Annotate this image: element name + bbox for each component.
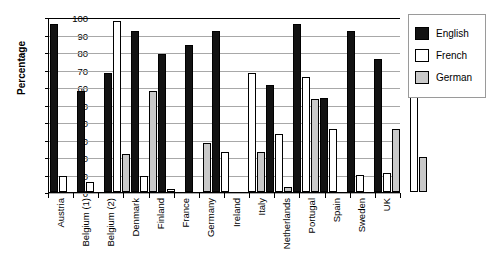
- bar-german: [419, 157, 427, 192]
- x-axis-label: Ireland: [232, 198, 242, 227]
- bar-group: [103, 18, 130, 192]
- bar-german: [392, 129, 400, 192]
- x-axis-label: Belgium (1): [81, 198, 91, 247]
- bar-german: [311, 99, 319, 192]
- chart-legend: EnglishFrenchGerman: [408, 14, 486, 98]
- x-axis-label: Portugal: [307, 198, 317, 233]
- plot-area: [48, 18, 400, 193]
- bar-english: [104, 73, 112, 192]
- x-axis-label-cell: Belgium (2): [98, 196, 123, 264]
- bar-group: [238, 18, 265, 192]
- x-axis-label: Netherlands: [282, 198, 292, 249]
- x-axis-label-cell: France: [174, 196, 199, 264]
- bar-german: [122, 154, 130, 193]
- bar-english: [320, 98, 328, 193]
- bar-french: [356, 175, 364, 193]
- legend-label: German: [436, 72, 472, 83]
- bar-group: [211, 18, 238, 192]
- bar-french: [140, 176, 148, 192]
- bar-english: [212, 31, 220, 192]
- bar-french: [113, 21, 121, 193]
- bar-french: [248, 73, 256, 192]
- x-axis-label: Austria: [56, 198, 66, 228]
- bar-group: [49, 18, 76, 192]
- bar-french: [275, 134, 283, 192]
- bar-french: [410, 87, 418, 192]
- bar-english: [374, 59, 382, 192]
- bar-group: [184, 18, 211, 192]
- x-axis-label-cell: Ireland: [224, 196, 249, 264]
- legend-item-french: French: [415, 44, 479, 66]
- bar-group: [265, 18, 292, 192]
- bar-group: [130, 18, 157, 192]
- x-axis-label-cell: Spain: [325, 196, 350, 264]
- legend-item-german: German: [415, 66, 479, 88]
- bar-group: [319, 18, 346, 192]
- x-axis-label-cell: Finland: [149, 196, 174, 264]
- x-axis-label: Italy: [257, 198, 267, 215]
- bar-english: [347, 31, 355, 192]
- x-axis-label-cell: Portugal: [299, 196, 324, 264]
- x-axis-tick-mark: [400, 193, 401, 198]
- x-axis-labels: AustriaBelgium (1)Belgium (2)DenmarkFinl…: [48, 196, 400, 264]
- legend-label: English: [436, 28, 469, 39]
- x-axis-label: Denmark: [131, 198, 141, 237]
- bar-french: [167, 189, 175, 193]
- x-axis-label-cell: Italy: [249, 196, 274, 264]
- x-axis-label-cell: Belgium (1): [73, 196, 98, 264]
- bar-english: [131, 31, 139, 192]
- legend-item-english: English: [415, 22, 479, 44]
- x-axis-label-cell: Austria: [48, 196, 73, 264]
- legend-swatch-french: [415, 49, 429, 62]
- bar-groups: [49, 18, 400, 192]
- bar-english: [77, 91, 85, 193]
- bar-french: [59, 176, 67, 192]
- bar-english: [266, 85, 274, 192]
- x-axis-label-cell: Germany: [199, 196, 224, 264]
- bar-french: [383, 173, 391, 192]
- bar-english: [50, 24, 58, 192]
- x-axis-label: Germany: [206, 198, 216, 237]
- bar-english: [293, 24, 301, 192]
- legend-label: French: [436, 50, 467, 61]
- y-axis-title: Percentage: [12, 18, 32, 118]
- bar-group: [346, 18, 373, 192]
- bar-english: [158, 54, 166, 192]
- bar-german: [284, 187, 292, 192]
- x-axis-label: Belgium (2): [106, 198, 116, 247]
- x-axis-label: Sweden: [357, 198, 367, 232]
- bar-french: [302, 77, 310, 193]
- x-axis-label-cell: Sweden: [350, 196, 375, 264]
- x-axis-label-cell: UK: [375, 196, 400, 264]
- bar-german: [203, 143, 211, 192]
- x-axis-label-cell: Netherlands: [274, 196, 299, 264]
- bar-group: [373, 18, 400, 192]
- x-axis-label: UK: [382, 198, 392, 211]
- bar-french: [86, 182, 94, 193]
- x-axis-label: France: [181, 198, 191, 228]
- bar-french: [329, 129, 337, 192]
- legend-swatch-german: [415, 71, 429, 84]
- x-axis-label-cell: Denmark: [123, 196, 148, 264]
- bar-group: [76, 18, 103, 192]
- bar-group: [292, 18, 319, 192]
- bar-german: [257, 152, 265, 192]
- bar-german: [149, 91, 157, 193]
- bar-french: [221, 152, 229, 192]
- chart-container: Percentage 1009080706050403020100 Austri…: [0, 0, 492, 265]
- legend-swatch-english: [415, 27, 429, 40]
- x-axis-label: Finland: [156, 198, 166, 229]
- bar-group: [157, 18, 184, 192]
- x-axis-label: Spain: [332, 198, 342, 222]
- bar-english: [185, 45, 193, 192]
